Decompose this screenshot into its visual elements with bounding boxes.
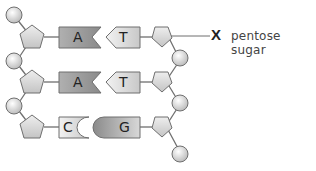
pentose-sugar-icon: [20, 70, 44, 93]
dna-diagram: [0, 0, 316, 171]
phosphate-icon: [6, 7, 22, 23]
phosphate-icon: [172, 146, 188, 162]
phosphate-icon: [6, 53, 22, 69]
base-guanine: [93, 117, 140, 138]
base-label: A: [73, 74, 83, 90]
pentose-sugar-icon: [152, 27, 172, 47]
base-label: T: [119, 29, 128, 45]
base-label: A: [73, 29, 83, 45]
pentose-sugar-icon: [20, 115, 44, 138]
pentose-sugar-icon: [152, 72, 172, 92]
base-label: G: [119, 119, 130, 135]
base-label: C: [63, 119, 73, 135]
annotation-marker: X: [211, 26, 221, 43]
phosphate-icon: [6, 98, 22, 114]
phosphate-icon: [172, 95, 188, 111]
pentose-sugar-icon: [152, 117, 172, 137]
annotation-text: pentose sugar: [231, 29, 316, 57]
base-label: T: [119, 74, 128, 90]
phosphate-icon: [172, 50, 188, 66]
